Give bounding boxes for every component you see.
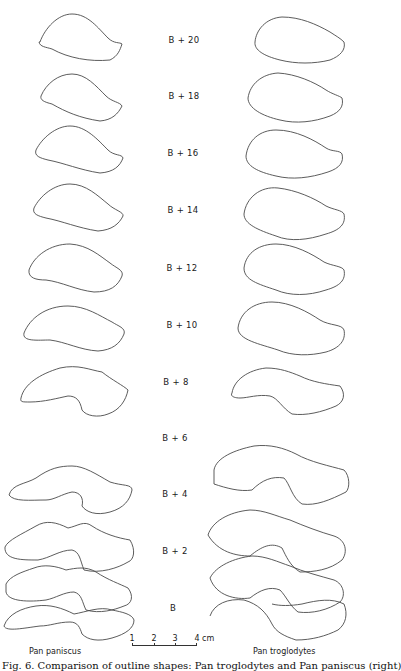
scale-tick-3: 3 [172,634,177,643]
figure-caption: Fig. 6. Comparison of outline shapes: Pa… [2,660,401,671]
scale-tick-4: 4 [194,634,199,643]
scale-tick-mark [132,643,133,646]
troglodytes-outline-b20 [255,17,344,63]
paniscus-outline-b10 [24,306,124,351]
stage-label-b18: B + 18 [169,91,200,101]
troglodytes-outline-b14 [244,188,344,240]
scale-tick-1: 1 [129,634,134,643]
stage-label-b4: B + 4 [162,489,187,499]
troglodytes-outline-b6 [214,445,349,504]
stage-label-b: B [170,603,176,613]
paniscus-outline-b20 [39,14,122,61]
paniscus-outline-b6 [9,466,132,514]
scale-tick-mark [154,643,155,646]
troglodytes-outline-b18 [248,73,343,122]
scale-tick-mark [175,643,176,646]
stage-label-b16: B + 16 [168,148,199,158]
paniscus-outline-b12 [29,244,122,292]
troglodytes-outline-b8 [231,368,343,415]
species-label-left: Pan paniscus [29,647,81,656]
troglodytes-outline-b10 [238,302,344,355]
species-label-right: Pan troglodytes [253,647,315,656]
scale-bar: 1 2 3 4 cm [128,634,218,648]
stage-label-b10: B + 10 [167,320,198,330]
stage-label-b14: B + 14 [168,205,199,215]
troglodytes-outline-b [210,600,346,640]
stage-label-b6: B + 6 [162,433,187,443]
scale-tick-2: 2 [151,634,156,643]
stage-label-b8: B + 8 [163,377,188,387]
scale-unit: cm [202,634,214,643]
paniscus-outline-b [4,605,134,640]
stage-label-b12: B + 12 [167,263,198,273]
stage-label-b20: B + 20 [169,35,200,45]
paniscus-outline-b16 [36,126,123,173]
paniscus-outline-b8 [21,367,128,416]
paniscus-outline-b4 [5,522,134,571]
stage-label-b2: B + 2 [162,546,187,556]
troglodytes-outline-b2 [210,556,343,613]
scale-line [132,645,197,646]
troglodytes-outline-b12 [244,244,344,295]
troglodytes-outline-b16 [246,130,342,178]
paniscus-outline-b18 [41,74,122,121]
paniscus-outline-b14 [34,184,123,231]
scale-tick-mark [196,643,197,646]
paniscus-outline-b2 [6,566,131,612]
